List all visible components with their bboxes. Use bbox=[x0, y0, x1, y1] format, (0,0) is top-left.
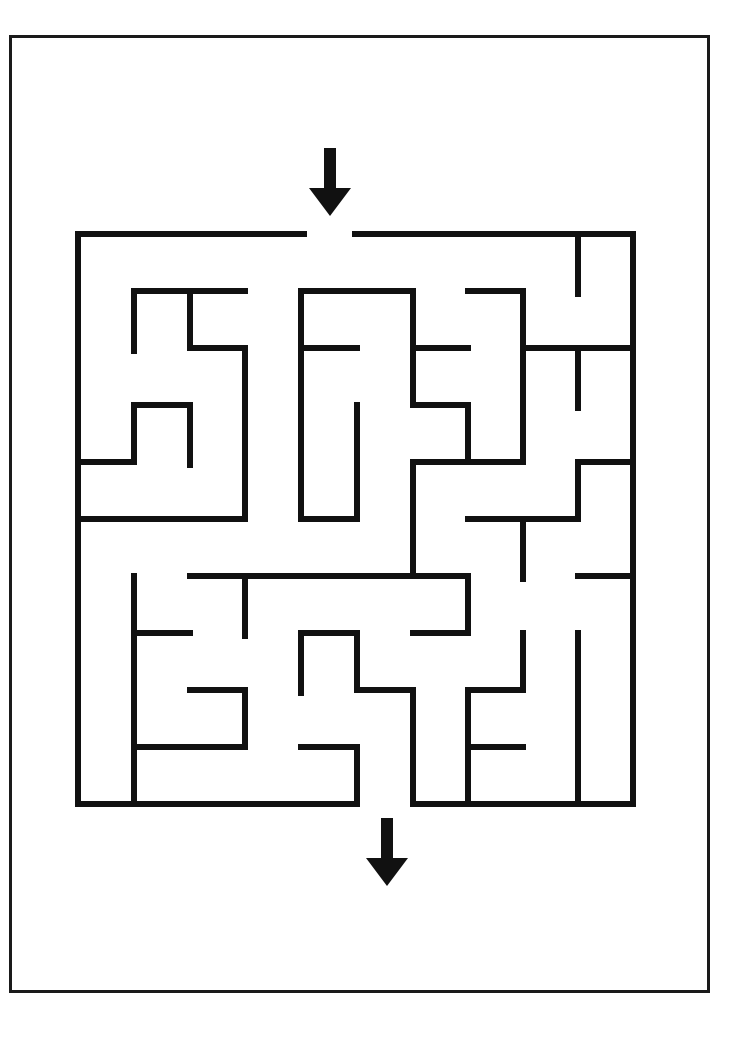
maze bbox=[0, 0, 751, 1054]
end-arrow-icon bbox=[366, 818, 408, 886]
maze-walls bbox=[78, 234, 633, 804]
start-arrow-icon bbox=[309, 148, 351, 216]
